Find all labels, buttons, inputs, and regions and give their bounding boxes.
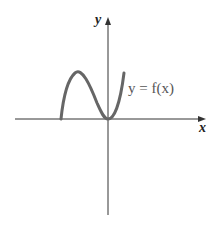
graph-canvas xyxy=(0,0,215,229)
x-axis-label: x xyxy=(199,120,206,136)
curve-label: y = f(x) xyxy=(128,80,174,97)
y-axis-label: y xyxy=(95,12,101,28)
function-curve xyxy=(61,72,124,119)
function-graph-figure: y x y = f(x) xyxy=(0,0,215,229)
y-axis-arrow-icon xyxy=(105,17,111,25)
